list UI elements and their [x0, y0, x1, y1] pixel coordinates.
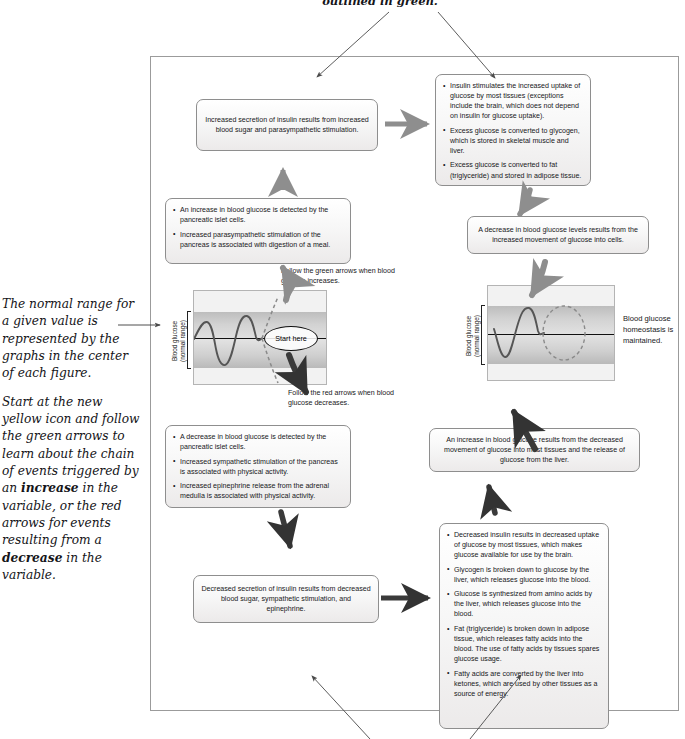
left-margin-note: The normal range for a given value is re… — [2, 296, 142, 595]
box-decrease-detected-list: A decrease in blood glucose is detected … — [173, 432, 343, 501]
left-note-decrease-emphasis: decrease — [2, 551, 62, 565]
box-decreased-insulin-effects-list: Decreased insulin results in decreased u… — [447, 530, 601, 699]
box-decrease-results-text: A decrease in blood glucose levels resul… — [475, 225, 641, 245]
list-item: Increased parasympathetic stimulation of… — [173, 230, 343, 250]
right-figure-range-bracket — [481, 305, 485, 365]
right-figure-plot — [487, 285, 615, 381]
list-item: Excess glucose is converted to glycogen,… — [443, 126, 583, 156]
caption-follow-red-arrows: Follow the red arrows when blood glucose… — [288, 388, 406, 408]
right-figure-curve-group — [488, 286, 615, 381]
right-figure-axis-label-line1: Blood glucose — [465, 316, 472, 356]
list-item: A decrease in blood glucose is detected … — [173, 432, 343, 452]
list-item: Fat (triglyceride) is broken down in adi… — [447, 624, 601, 664]
box-increased-insulin-secretion-text: Increased secretion of insulin results f… — [204, 115, 370, 135]
list-item: Excess glucose is converted to fat (trig… — [443, 160, 583, 180]
box-insulin-effects: Insulin stimulates the increased uptake … — [435, 74, 591, 186]
box-increase-detected: An increase in blood glucose is detected… — [165, 198, 351, 264]
list-item: Decreased insulin results in decreased u… — [447, 530, 601, 560]
right-figure-axis-label: Blood glucose (normal range) — [465, 303, 481, 369]
box-decrease-results: A decrease in blood glucose levels resul… — [467, 216, 649, 254]
left-note-paragraph-1: The normal range for a given value is re… — [2, 296, 142, 383]
left-figure-range-bracket — [187, 311, 191, 369]
list-item: Increased epinephrine release from the a… — [173, 481, 343, 501]
figure-right-blood-glucose: Blood glucose (normal range) Blood gluco… — [461, 285, 651, 385]
left-figure-axis-label-line2: (normal range) — [179, 320, 186, 362]
box-decrease-detected: A decrease in blood glucose is detected … — [165, 425, 351, 508]
box-increased-insulin-secretion: Increased secretion of insulin results f… — [196, 99, 378, 151]
list-item: An increase in blood glucose is detected… — [173, 205, 343, 225]
right-figure-axis-label-line2: (normal range) — [473, 315, 480, 357]
caption-follow-green-arrows: Follow the green arrows when blood gluco… — [281, 266, 399, 286]
right-figure-dashed-envelope — [543, 306, 585, 360]
start-here-label: Start here — [275, 334, 307, 343]
top-caption: outlined in green. — [280, 0, 480, 8]
left-figure-glucose-curve — [194, 316, 262, 365]
box-decreased-insulin-secretion-text: Decreased secretion of insulin results f… — [201, 584, 371, 614]
left-note-paragraph-2: Start at the new yellow icon and follow … — [2, 394, 142, 585]
box-increase-results: An increase in blood glucose results fro… — [429, 428, 640, 472]
list-item: Increased sympathetic stimulation of the… — [173, 457, 343, 477]
figure-left-blood-glucose: Blood glucose (normal range) Start here — [167, 290, 352, 387]
box-increase-detected-list: An increase in blood glucose is detected… — [173, 205, 343, 250]
list-item: Glycogen is broken down to glucose by th… — [447, 565, 601, 585]
box-decreased-insulin-effects: Decreased insulin results in decreased u… — [439, 523, 609, 729]
right-figure-side-caption: Blood glucose homeostasis is maintained. — [623, 313, 681, 346]
left-note-increase-emphasis: increase — [21, 481, 79, 495]
box-insulin-effects-list: Insulin stimulates the increased uptake … — [443, 81, 583, 181]
list-item: Glucose is synthesized from amino acids … — [447, 589, 601, 619]
box-increase-results-text: An increase in blood glucose results fro… — [437, 435, 632, 465]
diagram-frame: Increased secretion of insulin results f… — [150, 56, 679, 711]
left-figure-axis-label: Blood glucose (normal range) — [171, 308, 187, 374]
list-item: Insulin stimulates the increased uptake … — [443, 81, 583, 121]
list-item: Fatty acids are converted by the liver i… — [447, 669, 601, 699]
left-figure-plot: Start here — [193, 290, 327, 385]
box-decreased-insulin-secretion: Decreased secretion of insulin results f… — [193, 575, 379, 623]
right-figure-glucose-curve — [494, 308, 544, 357]
start-here-marker[interactable]: Start here — [264, 326, 318, 351]
left-figure-axis-label-line1: Blood glucose — [171, 321, 178, 361]
